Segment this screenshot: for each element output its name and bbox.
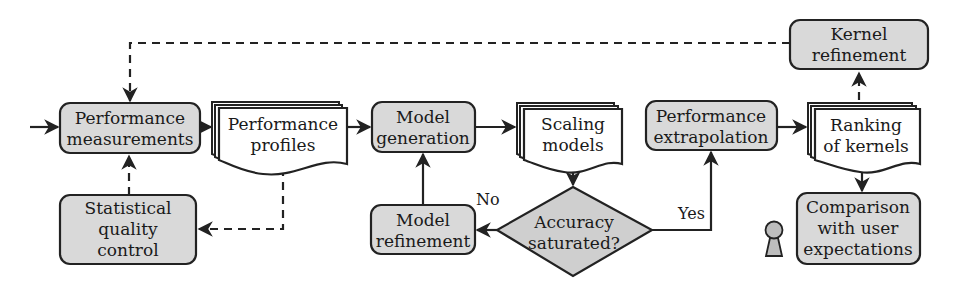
node-label-line1: Kernel: [831, 24, 888, 44]
node-label-line3: expectations: [803, 239, 912, 259]
node-label-line1: Performance: [228, 114, 338, 134]
node-label-line1: Performance: [656, 106, 766, 126]
person-icon: [766, 222, 783, 257]
node-label-line2: with user: [817, 218, 899, 238]
node-label-line2: of kernels: [823, 136, 909, 156]
node-label-line1: Comparison: [806, 197, 910, 217]
node-ranking-of-kernels: Ranking of kernels: [808, 103, 920, 173]
node-label-line2: models: [542, 135, 603, 155]
node-label-line1: Accuracy: [533, 212, 614, 232]
edge-profiles-quality: [199, 168, 283, 229]
node-performance-extrapolation: Performance extrapolation: [646, 101, 777, 150]
node-label-line1: Ranking: [830, 115, 902, 135]
edge-label-yes: Yes: [677, 204, 705, 223]
edge-label-no: No: [476, 190, 500, 209]
node-comparison-user-expectations: Comparison with user expectations: [797, 193, 920, 264]
node-label-line2: refinement: [812, 45, 907, 65]
node-label-line2: refinement: [376, 231, 471, 251]
node-statistical-quality-control: Statistical quality control: [60, 195, 196, 264]
node-label-line3: control: [97, 240, 158, 260]
node-scaling-models: Scaling models: [517, 103, 622, 173]
node-performance-measurements: Performance measurements: [60, 103, 200, 153]
node-label-line2: quality: [98, 219, 158, 239]
node-label-line1: Scaling: [541, 114, 605, 134]
workflow-diagram: Performance measurements Model generatio…: [0, 0, 955, 292]
node-label-line1: Performance: [75, 108, 185, 128]
node-model-generation: Model generation: [372, 102, 475, 152]
node-label-line2: generation: [376, 128, 470, 148]
node-performance-profiles: Performance profiles: [212, 102, 347, 174]
node-label-line1: Model: [396, 210, 450, 230]
node-label-line2: saturated?: [528, 233, 620, 253]
node-label-line1: Model: [396, 107, 450, 127]
node-label-line1: Statistical: [85, 198, 172, 218]
edge-kernel-refinement-measurements: [130, 43, 790, 101]
node-label-line2: measurements: [67, 129, 194, 149]
node-accuracy-saturated-decision: Accuracy saturated?: [497, 187, 652, 276]
node-label-line2: profiles: [251, 135, 316, 155]
node-kernel-refinement: Kernel refinement: [790, 20, 928, 69]
node-label-line2: extrapolation: [654, 127, 769, 147]
node-model-refinement: Model refinement: [371, 205, 475, 254]
